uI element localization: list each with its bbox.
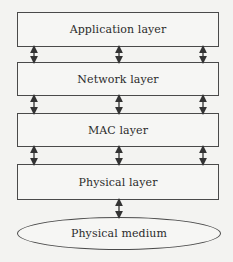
arrow-group-app-network <box>34 49 203 60</box>
bidirectional-arrows <box>0 0 233 262</box>
arrow-group-network-mac <box>34 98 203 111</box>
diagram-canvas: Application layer Network layer MAC laye… <box>0 0 233 262</box>
arrow-group-mac-physical <box>34 149 203 162</box>
